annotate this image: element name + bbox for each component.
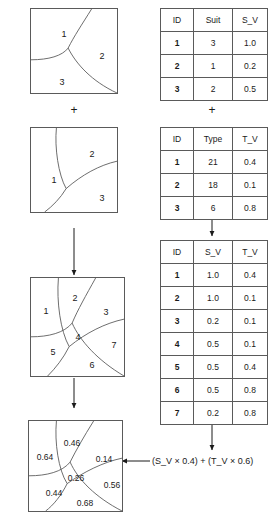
cell-tv: 0.1 — [233, 333, 268, 356]
cell-sv: 0.5 — [194, 333, 233, 356]
cell-suit: 3 — [194, 32, 233, 55]
cell-tv: 0.4 — [233, 151, 268, 174]
cell-tv: 0.1 — [233, 174, 268, 197]
table-header-row: ID S_V T_V — [161, 241, 268, 264]
suit-attribute-table: ID Suit S_V 1 3 1.0 2 1 0.2 3 2 0.5 — [160, 8, 268, 101]
cell-type: 18 — [194, 174, 233, 197]
result-map-boundaries — [29, 421, 122, 511]
table-row: 5 0.5 0.4 — [161, 356, 268, 379]
overlay-map-boundaries — [31, 278, 124, 376]
cell-tv: 0.4 — [233, 356, 268, 379]
column-header-id: ID — [161, 9, 194, 32]
table-row: 3 0.2 0.1 — [161, 310, 268, 333]
cell-tv: 0.4 — [233, 264, 268, 287]
table-row: 3 6 0.8 — [161, 197, 268, 220]
column-header-tv: T_V — [233, 241, 268, 264]
table-header-row: ID Suit S_V — [161, 9, 268, 32]
table-row: 2 18 0.1 — [161, 174, 268, 197]
table-row: 1 1.0 0.4 — [161, 264, 268, 287]
column-header-sv: S_V — [233, 9, 268, 32]
cell-id: 6 — [161, 379, 194, 402]
column-header-sv: S_V — [194, 241, 233, 264]
type-attribute-table: ID Type T_V 1 21 0.4 2 18 0.1 3 6 0.8 — [160, 127, 268, 220]
cell-sv: 1.0 — [194, 264, 233, 287]
type-map-boundaries — [31, 128, 117, 212]
cell-sv: 0.2 — [194, 310, 233, 333]
cell-tv: 0.8 — [233, 402, 268, 425]
suitability-map-boundaries — [31, 9, 117, 93]
table-row: 2 1.0 0.1 — [161, 287, 268, 310]
cell-id: 5 — [161, 356, 194, 379]
cell-id: 7 — [161, 402, 194, 425]
cell-type: 21 — [194, 151, 233, 174]
overlay-map — [30, 277, 125, 377]
type-map — [30, 127, 118, 213]
cell-id: 2 — [161, 174, 194, 197]
suitability-map — [30, 8, 118, 94]
table-row: 3 2 0.5 — [161, 78, 268, 101]
cell-type: 6 — [194, 197, 233, 220]
cell-suit: 1 — [194, 55, 233, 78]
plus-operator-left: + — [70, 104, 77, 116]
cell-sv: 0.5 — [194, 356, 233, 379]
cell-sv: 0.2 — [194, 402, 233, 425]
column-header-tv: T_V — [233, 128, 268, 151]
column-header-id: ID — [161, 128, 194, 151]
cell-suit: 2 — [194, 78, 233, 101]
cell-id: 3 — [161, 310, 194, 333]
column-header-suit: Suit — [194, 9, 233, 32]
cell-tv: 0.1 — [233, 310, 268, 333]
table-row: 2 1 0.2 — [161, 55, 268, 78]
cell-id: 2 — [161, 287, 194, 310]
cell-tv: 0.8 — [233, 197, 268, 220]
cell-id: 1 — [161, 151, 194, 174]
plus-operator-right: + — [208, 104, 215, 116]
table-row: 1 21 0.4 — [161, 151, 268, 174]
cell-tv: 0.8 — [233, 379, 268, 402]
cell-sv: 0.2 — [233, 55, 268, 78]
cell-id: 3 — [161, 78, 194, 101]
column-header-id: ID — [161, 241, 194, 264]
table-row: 6 0.5 0.8 — [161, 379, 268, 402]
weighted-sum-formula: (S_V × 0.4) + (T_V × 0.6) — [152, 457, 253, 466]
cell-id: 3 — [161, 197, 194, 220]
table-header-row: ID Type T_V — [161, 128, 268, 151]
cell-sv: 1.0 — [233, 32, 268, 55]
joined-attribute-table: ID S_V T_V 1 1.0 0.4 2 1.0 0.1 3 0.2 0.1 — [160, 240, 268, 425]
cell-tv: 0.1 — [233, 287, 268, 310]
table-row: 7 0.2 0.8 — [161, 402, 268, 425]
cell-id: 1 — [161, 264, 194, 287]
cell-id: 2 — [161, 55, 194, 78]
column-header-type: Type — [194, 128, 233, 151]
cell-sv: 0.5 — [194, 379, 233, 402]
result-map — [28, 420, 123, 512]
overlay-analysis-figure: 1 2 3 + 1 2 3 1 2 3 4 5 6 7 — [0, 0, 276, 521]
cell-id: 4 — [161, 333, 194, 356]
cell-sv: 0.5 — [233, 78, 268, 101]
table-row: 4 0.5 0.1 — [161, 333, 268, 356]
cell-sv: 1.0 — [194, 287, 233, 310]
table-row: 1 3 1.0 — [161, 32, 268, 55]
cell-id: 1 — [161, 32, 194, 55]
